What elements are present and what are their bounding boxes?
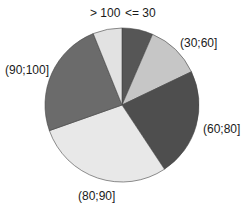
slice-label: > 100 <box>90 6 121 20</box>
slice-label: (30;60] <box>180 36 217 50</box>
slice-label: (80;90] <box>78 189 115 203</box>
slice-label: (90;100] <box>5 63 49 77</box>
slice-label: (60;80] <box>203 122 240 136</box>
pie-slices <box>45 28 199 182</box>
pie-chart: <= 30(30;60](60;80](80;90](90;100]> 100 <box>0 0 246 206</box>
slice-label: <= 30 <box>125 6 156 20</box>
